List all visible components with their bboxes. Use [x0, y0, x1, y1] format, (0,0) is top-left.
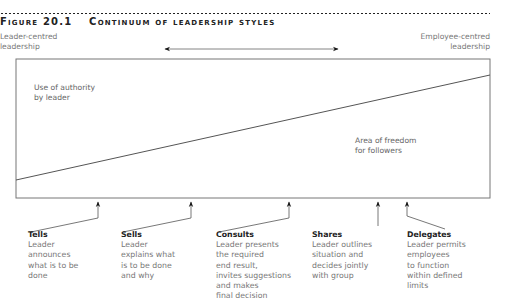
freedom-label-line1: Area of freedom	[355, 136, 416, 146]
authority-region-label: Use of authority by leader	[34, 83, 95, 103]
style-description: Leader explains what is to be done and w…	[121, 240, 175, 281]
style-description: Leader announces what is to be done	[28, 240, 78, 281]
continuum-box	[16, 59, 490, 198]
style-name: Sells	[121, 230, 175, 240]
authority-label-line1: Use of authority	[34, 83, 95, 93]
style-description: Leader permits employees to function wit…	[407, 240, 466, 291]
tells-pointer	[31, 202, 98, 232]
freedom-region-label: Area of freedom for followers	[355, 136, 416, 156]
freedom-label-line2: for followers	[355, 146, 416, 156]
style-consults: Consults Leader presents the required en…	[216, 230, 291, 301]
authority-label-line2: by leader	[34, 93, 95, 103]
style-name: Shares	[312, 230, 372, 240]
style-delegates: Delegates Leader permits employees to fu…	[407, 230, 466, 291]
sells-pointer	[123, 202, 191, 232]
consults-pointer	[219, 202, 289, 232]
style-name: Tells	[28, 230, 78, 240]
style-name: Consults	[216, 230, 291, 240]
style-shares: Shares Leader outlines situation and dec…	[312, 230, 372, 281]
style-description: Leader outlines situation and decides jo…	[312, 240, 372, 281]
style-name: Delegates	[407, 230, 466, 240]
style-tells: Tells Leader announces what is to be don…	[28, 230, 78, 281]
style-description: Leader presents the required end result,…	[216, 240, 291, 301]
delegates-pointer	[407, 202, 445, 229]
style-sells: Sells Leader explains what is to be done…	[121, 230, 175, 281]
